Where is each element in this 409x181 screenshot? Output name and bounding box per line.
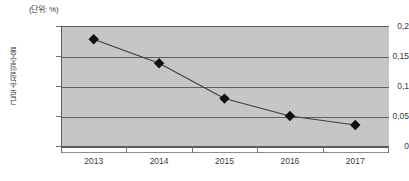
gridline (62, 147, 389, 148)
series-layer (61, 26, 388, 146)
y-tick-mark (56, 116, 61, 117)
x-tick-label: 2017 (327, 156, 383, 166)
x-tick-mark (323, 146, 324, 153)
x-tick-mark (126, 146, 127, 153)
data-point-marker (350, 120, 360, 130)
x-tick-mark (388, 146, 389, 153)
y-tick-mark (56, 56, 61, 57)
x-axis-line (61, 146, 389, 147)
y-axis-title: 근로손실일수율 (7, 38, 21, 114)
series-marker-group (89, 34, 361, 130)
x-tick-label: 2013 (66, 156, 122, 166)
x-tick-label: 2016 (262, 156, 318, 166)
y-tick-label: 0,1 (363, 82, 409, 91)
y-tick-label: 0 (363, 142, 409, 151)
series-line (94, 39, 356, 125)
x-tick-label: 2015 (197, 156, 253, 166)
y-tick-label: 0,2 (363, 22, 409, 31)
y-tick-mark (56, 86, 61, 87)
x-tick-mark (61, 146, 62, 153)
x-tick-rail (61, 152, 389, 153)
unit-caption: (단위: %) (29, 5, 59, 15)
y-tick-label: 0,15 (363, 52, 409, 61)
data-point-marker (154, 58, 164, 68)
data-point-marker (285, 111, 295, 121)
y-tick-mark (56, 26, 61, 27)
data-point-marker (219, 93, 229, 103)
y-tick-label: 0,05 (363, 112, 409, 121)
x-tick-label: 2014 (131, 156, 187, 166)
x-tick-mark (257, 146, 258, 153)
x-tick-mark (192, 146, 193, 153)
line-chart-figure: (단위: %) 근로손실일수율 0,20,150,10,050 20132014… (0, 0, 409, 181)
data-point-marker (89, 34, 99, 44)
